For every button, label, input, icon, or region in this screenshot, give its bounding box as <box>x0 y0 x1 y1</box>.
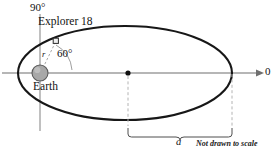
satellite-name-label: Explorer 18 <box>38 16 93 28</box>
not-drawn-to-scale-note: Not drawn to scale <box>196 140 258 148</box>
satellite-marker <box>53 38 58 43</box>
axis-arrowhead-icon <box>256 69 264 76</box>
orbit-diagram-figure: 90° Explorer 18 r 60° Earth 0 a Not draw… <box>0 0 280 157</box>
angle-60-label: 60° <box>57 48 72 59</box>
semi-major-axis-label: a <box>176 137 181 148</box>
earth-highlight <box>34 67 40 73</box>
angle-90-label: 90° <box>30 2 45 13</box>
ellipse-center-dot <box>125 70 130 75</box>
axis-origin-label: 0 <box>265 66 271 77</box>
earth-label: Earth <box>33 81 58 93</box>
radius-label: r <box>42 50 45 59</box>
earth-body <box>32 65 48 81</box>
